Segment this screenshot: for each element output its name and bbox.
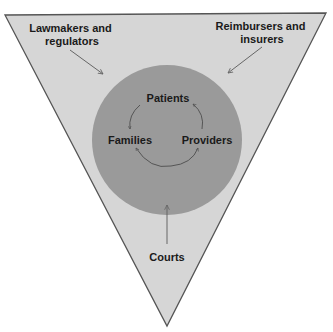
providers-label: Providers (182, 134, 233, 146)
courts-label: Courts (149, 251, 184, 263)
families-label: Families (108, 134, 152, 146)
patients-label: Patients (147, 92, 190, 104)
stakeholder-diagram: Lawmakers and regulators Reimbursers and… (0, 0, 333, 332)
